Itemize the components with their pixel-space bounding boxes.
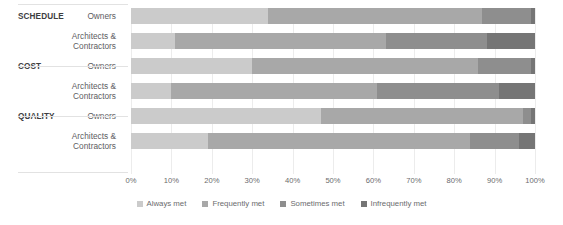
x-axis-tick-label: 0% [126,176,137,185]
x-axis-tick-label: 30% [245,176,260,185]
x-axis-tick-label: 20% [204,176,219,185]
bar-segment [519,133,535,149]
bar-segment [131,33,175,49]
legend-label: Always met [147,199,187,208]
bar-segment [131,108,321,124]
legend-swatch-icon [202,201,208,207]
x-axis-tick-label: 90% [487,176,502,185]
bar-segment [499,83,535,99]
legend-item[interactable]: Always met [137,199,187,208]
row-label: SCHEDULEOwners [0,4,122,29]
legend-label: Infrequently met [371,199,427,208]
bar-row [131,8,535,24]
gridline [535,8,536,174]
x-axis-tick-label: 50% [325,176,340,185]
bar-segment [377,83,498,99]
bar-row [131,83,535,99]
legend-swatch-icon [361,201,367,207]
bar-segment [131,8,268,24]
legend-item[interactable]: Frequently met [202,199,264,208]
bar-segment [131,58,252,74]
stacked-bar-chart: SCHEDULEOwnersArchitects &ContractorsCOS… [0,0,563,225]
bar-segment [478,58,531,74]
legend-swatch-icon [137,201,143,207]
row-respondent-label: Architects &Contractors [72,82,116,101]
group-divider [18,116,128,117]
bar-segment [208,133,471,149]
x-axis-tick-label: 40% [285,176,300,185]
bar-segment [131,83,171,99]
bar-segment [531,58,535,74]
row-respondent-label: Architects &Contractors [72,132,116,151]
row-group-label: SCHEDULE [18,12,64,21]
row-label: Architects &Contractors [0,79,122,104]
row-label: Architects &Contractors [0,129,122,154]
group-divider [18,172,128,173]
bar-segment [131,133,208,149]
legend-item[interactable]: Sometimes met [280,199,344,208]
bar-row [131,133,535,149]
bar-segment [523,108,531,124]
legend-item[interactable]: Infrequently met [361,199,427,208]
chart-legend: Always metFrequently metSometimes metInf… [0,199,563,208]
bar-segment [531,108,535,124]
bar-segment [321,108,523,124]
row-label: Architects &Contractors [0,29,122,54]
bar-segment [386,33,487,49]
x-axis-tick-label: 70% [406,176,421,185]
bar-segment [175,33,385,49]
group-divider [18,66,128,67]
legend-label: Frequently met [212,199,264,208]
row-respondent-label: Architects &Contractors [72,32,116,51]
bar-segment [252,58,478,74]
legend-swatch-icon [280,201,286,207]
legend-label: Sometimes met [290,199,344,208]
x-axis-tick-label: 10% [164,176,179,185]
row-respondent-label: Owners [87,12,116,22]
bar-row [131,33,535,49]
plot-area [131,8,535,174]
bar-segment [171,83,377,99]
bar-segment [470,133,518,149]
bar-segment [487,33,535,49]
bar-row [131,108,535,124]
bar-row [131,58,535,74]
group-divider [18,4,128,5]
bar-segment [482,8,530,24]
x-axis-tick-label: 60% [366,176,381,185]
x-axis: 0%10%20%30%40%50%60%70%80%90%100% [131,176,535,190]
x-axis-tick-label: 100% [525,176,544,185]
row-label-column: SCHEDULEOwnersArchitects &ContractorsCOS… [0,0,130,175]
bar-segment [268,8,482,24]
bar-segment [531,8,535,24]
x-axis-tick-label: 80% [447,176,462,185]
